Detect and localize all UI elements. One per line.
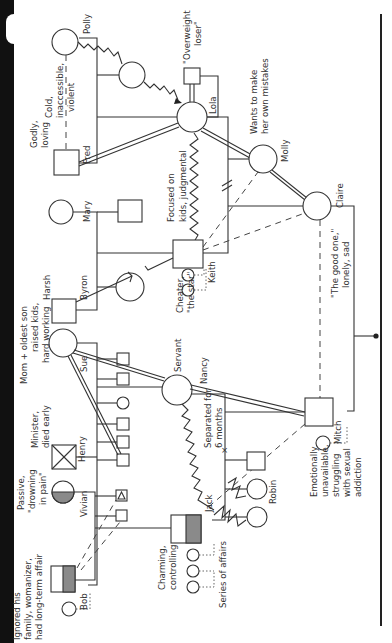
mitch-note-1: Emotionally <box>309 446 319 497</box>
keith-symbol <box>173 240 203 268</box>
jack-name: Jack <box>204 494 214 513</box>
jack-note-1: Charming, <box>157 546 167 591</box>
sue-note-3: hard working <box>41 307 51 363</box>
mitch-symbol <box>305 398 333 426</box>
vivian-note-2: "drowning <box>27 469 37 513</box>
overweight-symbol <box>184 68 200 84</box>
robin-conflict-2 <box>214 506 246 526</box>
vivian-note-1: Passive, <box>16 475 26 510</box>
fred-note-1: Godly, <box>29 120 39 148</box>
jack-affair-1 <box>187 549 199 561</box>
mary-symbol <box>118 200 142 222</box>
mitch-note-3: struggling <box>331 454 341 497</box>
nancy-symbol <box>162 375 192 405</box>
keith-note-2: "the star" <box>186 272 196 313</box>
robin-sib-symbol <box>247 452 265 470</box>
fred-polly-couple-line <box>79 38 97 163</box>
keith-name: Keith <box>207 261 217 283</box>
harsh-name: Harsh <box>42 275 52 300</box>
sue-name: Sue <box>79 356 89 372</box>
bob-note-1: Ignored his <box>12 592 22 640</box>
mary-name: Mary <box>82 201 92 222</box>
bob-affair-symbol <box>62 602 76 616</box>
bob-child-distant-b <box>81 522 120 570</box>
byron-name: Byron <box>79 275 89 300</box>
cold-person-symbol <box>119 62 145 88</box>
bob-name: Bob <box>79 593 89 610</box>
claire-symbol <box>303 192 331 220</box>
polly-name: Polly <box>82 14 92 34</box>
sue-child-6 <box>117 454 129 466</box>
overweight-note-1: "Overweight <box>182 10 192 64</box>
jack-affair-2 <box>187 565 199 577</box>
keith-note-1: Cheater, <box>175 276 185 313</box>
fred-symbol <box>54 150 79 175</box>
bob-shade <box>63 566 75 592</box>
keith-cutoff-line <box>145 258 173 270</box>
sue-symbol <box>49 329 77 357</box>
cold-note-2: inaccessible, <box>55 63 65 118</box>
mitch-name: Mitch <box>333 421 343 444</box>
vivian-shade <box>52 492 74 503</box>
jack-affair-3 <box>187 581 199 593</box>
sue-child-4 <box>117 418 129 430</box>
henry-note-1: Minister, <box>30 411 40 448</box>
polly-cold-conflict-line <box>78 42 122 64</box>
sue-child-close-a <box>68 356 118 455</box>
robin-name: Robin <box>268 480 278 504</box>
child-dot <box>373 333 378 338</box>
keith-claire-distant <box>203 213 305 250</box>
henry-note-2: died early <box>41 405 51 448</box>
sue-child-3 <box>117 397 129 409</box>
mitch-note-2: unavailable, <box>320 445 330 497</box>
cold-note-1: Cold, <box>44 96 54 118</box>
divorce-slash-2 <box>222 185 232 191</box>
jack-affair-dotted-1 <box>199 543 214 555</box>
jack-shade <box>186 515 201 543</box>
sue-child-2 <box>117 373 129 385</box>
mitch-note-5: addiction <box>353 457 363 497</box>
sue-note-2: raised kids, <box>30 303 40 352</box>
genogram-page: × <box>0 0 392 643</box>
overweight-note-2: loser" <box>193 21 203 46</box>
robin-conflict-1 <box>228 478 246 498</box>
robin-symbol <box>247 479 267 499</box>
genogram-diagram: × <box>0 0 392 643</box>
separated-note-2: 6 months <box>214 407 224 448</box>
focused-note-1: Focused on <box>166 173 176 222</box>
molly-note-2: her own mistakes <box>260 58 270 134</box>
molly-note-1: Wants to make <box>249 70 259 134</box>
molly-symbol <box>249 145 277 173</box>
lola-keith-conflict-line <box>190 133 198 242</box>
vivian-child-2 <box>116 510 127 521</box>
mary-parent-symbol <box>49 200 73 224</box>
fred-note-2: loving <box>40 122 50 148</box>
sue-child-1 <box>117 353 129 365</box>
polly-symbol <box>52 29 78 55</box>
vivian-note-3: in pain" <box>38 472 48 505</box>
sue-note-1: Mom + oldest son <box>19 306 29 384</box>
affairs-note: Series of affairs <box>218 540 228 608</box>
fred-lola-close-line-a <box>79 123 178 162</box>
bob-note-3: had long-term affair <box>34 553 44 640</box>
molly-name: Molly <box>280 139 290 162</box>
cold-lola-conflict-line <box>144 82 178 100</box>
molly-claire-close-a <box>272 170 307 198</box>
fred-name: Fred <box>82 146 92 164</box>
sue-child-5 <box>117 436 129 448</box>
nancy-name: Nancy <box>199 357 209 384</box>
nancy-note: Servant <box>173 338 183 372</box>
separated-note-1: Separated for <box>203 389 213 448</box>
claire-note-1: "The good one," <box>330 228 340 298</box>
lola-molly-close-b <box>201 131 250 158</box>
molly-claire-close-b <box>270 172 305 200</box>
divorce-slash-1 <box>222 180 232 186</box>
fred-lola-close-line-b <box>79 127 179 166</box>
henry-name: Henry <box>77 436 87 462</box>
keith-molly-distant <box>203 172 258 247</box>
claire-name: Claire <box>335 183 345 208</box>
jack-affair-dotted-3 <box>199 571 214 587</box>
jack-note-2: controlling <box>168 545 178 590</box>
robin-sib2-symbol <box>247 507 267 527</box>
bob-note-2: family, womanizer, <box>23 558 33 640</box>
